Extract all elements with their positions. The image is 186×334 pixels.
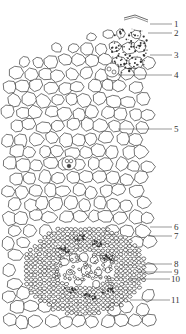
parenchyma-cell: [23, 224, 36, 237]
bundle-cell: [119, 261, 123, 264]
bundle-cell: [42, 295, 46, 299]
core-cell: [72, 266, 75, 269]
bundle-cell: [83, 307, 87, 310]
bundle-cell: [42, 274, 46, 277]
bundle-cell: [124, 253, 128, 256]
bundle-cell: [52, 303, 56, 307]
bundle-cell: [78, 300, 82, 303]
parenchyma-cell: [51, 70, 65, 83]
stipple-dot: [111, 51, 113, 53]
bundle-cell: [106, 303, 110, 307]
stipple-dot: [115, 48, 116, 49]
bundle-cell: [25, 282, 30, 286]
bundle-cell: [141, 262, 145, 265]
stipple-dot: [129, 33, 130, 34]
bundle-cell: [47, 232, 51, 235]
bundle-cell: [47, 295, 51, 298]
fiber-dot: [67, 251, 69, 253]
stipple-dot: [128, 39, 129, 40]
core-cell: [75, 256, 78, 259]
bundle-cell: [101, 232, 105, 236]
parenchyma-cell: [66, 68, 79, 80]
bundle-cell: [106, 228, 111, 231]
bundle-cell: [132, 257, 136, 261]
bundle-cell: [56, 295, 60, 299]
fiber-dot: [113, 260, 114, 261]
bundle-cell: [132, 291, 136, 294]
bundle-cell: [43, 266, 47, 269]
bundle-cell: [51, 240, 55, 244]
fiber-dot: [105, 258, 107, 260]
bundle-cell: [110, 249, 114, 252]
bundle-cell: [124, 262, 128, 266]
parenchyma-cell: [45, 314, 61, 327]
fiber-dot: [78, 240, 80, 242]
parenchyma-cell: [17, 107, 31, 118]
core-cell: [68, 277, 71, 280]
parenchyma-cell: [9, 66, 23, 79]
parenchyma-cell: [52, 95, 64, 106]
bundle-cell: [43, 299, 47, 302]
core-cell: [103, 268, 106, 271]
stipple-dot: [143, 49, 145, 51]
fiber-dot: [114, 256, 115, 257]
parenchyma-cell: [2, 236, 14, 250]
bundle-cell: [97, 236, 102, 239]
stipple-dot: [120, 36, 121, 37]
parenchyma-cell: [101, 315, 115, 328]
bundle-cell: [118, 236, 122, 240]
bundle-cell: [38, 277, 42, 281]
stipple-dot: [119, 31, 121, 33]
fiber-dot: [102, 288, 103, 289]
core-cell: [81, 278, 84, 281]
parenchyma-cell: [106, 171, 120, 184]
stipple-dot: [114, 34, 116, 36]
bundle-cell: [61, 240, 65, 243]
core-cell: [64, 277, 67, 280]
fiber-dot: [73, 237, 74, 238]
stipple-dot: [117, 64, 118, 65]
bundle-cell: [119, 265, 123, 269]
stipple-dot: [129, 42, 130, 43]
bundle-cell: [47, 240, 51, 244]
callout-11: 11: [130, 295, 180, 305]
bundle-cell: [25, 274, 29, 278]
core-cell: [58, 262, 61, 265]
stipple-dot: [119, 38, 120, 39]
bundle-cell: [29, 265, 33, 269]
bundle-cell: [92, 237, 96, 240]
bundle-cell: [79, 231, 83, 234]
core-cell: [109, 265, 112, 268]
fiber-dot: [113, 292, 114, 293]
bundle-cell: [114, 283, 118, 287]
bundle-cell: [105, 236, 110, 239]
callout-label: 3: [174, 50, 179, 60]
bundle-cell: [25, 256, 29, 260]
fiber-dot: [85, 297, 87, 299]
parenchyma-cell: [17, 237, 30, 247]
parenchyma-cell: [93, 171, 107, 183]
fiber-dot: [70, 291, 72, 293]
stipple-dot: [138, 64, 139, 65]
stipple-dot: [122, 52, 123, 53]
core-cell: [90, 271, 93, 274]
bundle-cell: [123, 295, 127, 299]
stipple-dot: [130, 46, 132, 48]
stipple-dot: [123, 63, 125, 65]
bundle-cell: [47, 282, 51, 286]
bundle-cell: [119, 286, 123, 289]
parenchyma-cell: [15, 80, 29, 92]
core-cell: [88, 265, 91, 267]
core-cell: [76, 278, 79, 281]
secretory-grain: [67, 164, 71, 168]
stipple-dot: [136, 64, 138, 66]
bundle-cell: [132, 282, 136, 286]
bundle-cell: [34, 295, 38, 299]
bundle-cell: [56, 299, 60, 303]
bundle-cell: [128, 240, 132, 244]
bundle-cell: [47, 261, 51, 264]
bundle-cell: [33, 290, 38, 293]
parenchyma-cell: [40, 146, 51, 158]
fiber-dot: [67, 287, 68, 288]
bundle-cell: [119, 256, 123, 260]
